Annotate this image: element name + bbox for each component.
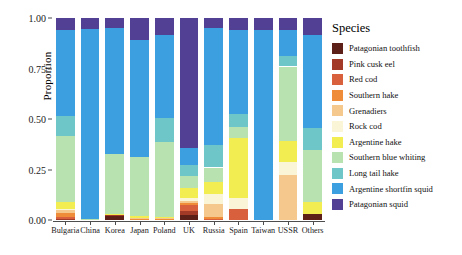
- legend-item: Long tail hake: [332, 166, 460, 182]
- x-axis-tick-label: Japan: [130, 226, 149, 235]
- legend-swatch-icon: [332, 74, 343, 85]
- bar-segment: [204, 182, 223, 194]
- legend-item: Southern blue whiting: [332, 150, 460, 166]
- legend-item: Patagonian squid: [332, 197, 460, 213]
- bar-segment: [279, 141, 298, 162]
- bar-segment: [180, 211, 199, 215]
- bar-segment: [56, 219, 75, 220]
- x-axis-tick-label: Korea: [105, 226, 125, 235]
- legend-swatch-icon: [332, 137, 343, 148]
- bar-segment: [229, 30, 248, 114]
- bar-segment: [279, 30, 298, 56]
- x-axis-tick-label: Others: [302, 226, 324, 235]
- bar-segment: [56, 217, 75, 219]
- y-axis-tick-label: 0.00: [29, 215, 47, 226]
- x-axis-tick-label: Taiwan: [251, 226, 275, 235]
- x-axis-tick-label: China: [80, 226, 100, 235]
- bar-segment: [130, 216, 149, 218]
- legend-item-label: Patagonian squid: [349, 200, 408, 209]
- bar-segment: [204, 204, 223, 217]
- x-axis-tick-mark: [313, 221, 314, 225]
- bar-segment: [155, 219, 174, 220]
- legend-swatch-icon: [332, 152, 343, 163]
- y-axis-tick-label: 0.75: [29, 63, 47, 74]
- y-axis-tick-mark: [48, 169, 52, 170]
- y-axis-tick-mark: [48, 119, 52, 120]
- legend-item-label: Long tail hake: [349, 169, 399, 178]
- legend-item-label: Southern hake: [349, 91, 398, 100]
- legend-swatch-icon: [332, 121, 343, 132]
- bar-segment: [279, 162, 298, 174]
- stacked-bar-chart: Proportion 0.000.250.500.751.00 Species …: [0, 0, 462, 255]
- bar-segment: [254, 18, 273, 30]
- legend-item-label: Argentine hake: [349, 138, 402, 147]
- bar-segment: [279, 67, 298, 142]
- legend-swatch-icon: [332, 199, 343, 210]
- bar-column: [105, 18, 124, 220]
- bar-segment: [130, 157, 149, 216]
- bar-segment: [303, 128, 322, 150]
- bar-segment: [303, 35, 322, 128]
- bar-column: [204, 18, 223, 220]
- bar-segment: [56, 213, 75, 217]
- bar-segment: [180, 198, 199, 201]
- bar-segment: [229, 18, 248, 30]
- bar-segment: [229, 198, 248, 209]
- bar-column: [81, 18, 100, 220]
- bar-segment: [105, 215, 124, 216]
- bar-segment: [303, 214, 322, 220]
- bar-segment: [229, 138, 248, 198]
- plot-area: [53, 18, 325, 220]
- bar-segment: [180, 18, 199, 148]
- bar-segment: [229, 114, 248, 127]
- bar-segment: [204, 18, 223, 28]
- bar-segment: [56, 30, 75, 116]
- bar-segment: [155, 218, 174, 219]
- legend-item-label: Rock cod: [349, 122, 382, 131]
- bar-segment: [155, 35, 174, 118]
- bar-segment: [81, 29, 100, 219]
- bar-segment: [180, 188, 199, 198]
- y-axis-ticks: 0.000.250.500.751.00: [22, 18, 52, 220]
- bar-segment: [279, 18, 298, 30]
- x-axis-tick-mark: [164, 221, 165, 225]
- x-axis-tick-mark: [263, 221, 264, 225]
- bar-segment: [155, 142, 174, 217]
- x-axis-tick-mark: [90, 221, 91, 225]
- bar-segment: [56, 209, 75, 210]
- bar-segment: [254, 30, 273, 220]
- bar-segment: [303, 150, 322, 202]
- bar-segment: [303, 18, 322, 35]
- y-axis-tick-label: 0.25: [29, 164, 47, 175]
- y-axis-tick-label: 0.50: [29, 114, 47, 125]
- bar-segment: [204, 219, 223, 220]
- bar-segment: [180, 201, 199, 203]
- legend-item-label: Southern blue whiting: [349, 153, 425, 162]
- x-axis-tick-label: Spain: [229, 226, 248, 235]
- legend-item: Red cod: [332, 72, 460, 88]
- bar-segment: [204, 194, 223, 204]
- legend-item: Argentine shortfin squid: [332, 181, 460, 197]
- bar-segment: [279, 56, 298, 66]
- bar-segment: [229, 209, 248, 220]
- legend-item-label: Pink cusk eel: [349, 60, 395, 69]
- legend-swatch-icon: [332, 105, 343, 116]
- bar-segment: [105, 216, 124, 220]
- x-axis-tick-mark: [238, 221, 239, 225]
- bar-column: [279, 18, 298, 220]
- x-axis-tick-label: UK: [183, 226, 195, 235]
- bar-segment: [81, 219, 100, 220]
- bar-segment: [56, 116, 75, 136]
- x-axis-tick-mark: [214, 221, 215, 225]
- bar-segment: [105, 18, 124, 28]
- bar-segment: [105, 154, 124, 214]
- bar-segment: [204, 168, 223, 182]
- bar-segment: [204, 145, 223, 167]
- x-axis-tick-mark: [140, 221, 141, 225]
- legend-item: Pink cusk eel: [332, 56, 460, 72]
- legend-swatch-icon: [332, 183, 343, 194]
- bar-segment: [204, 217, 223, 219]
- bar-segment: [56, 18, 75, 30]
- bar-segment: [130, 18, 149, 40]
- bar-segment: [56, 202, 75, 209]
